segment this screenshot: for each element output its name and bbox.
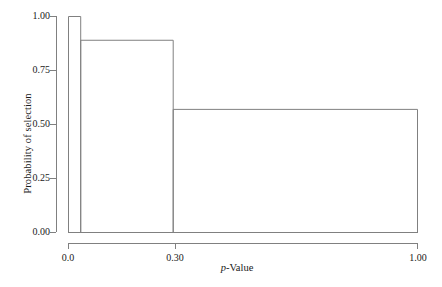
x-axis-label: p-Value bbox=[56, 262, 418, 273]
y-axis-ticks bbox=[50, 17, 56, 233]
histogram-plot bbox=[0, 0, 442, 287]
x-axis-tick-labels: 0.0 0.30 1.00 bbox=[0, 245, 442, 261]
histogram-bar-1 bbox=[69, 17, 81, 233]
histogram-bar-3 bbox=[173, 109, 417, 232]
y-axis-label: Probability of selection bbox=[18, 0, 36, 287]
y-axis-label-text: Probability of selection bbox=[22, 93, 33, 193]
histogram-bar-2 bbox=[81, 40, 173, 232]
chart-figure: 1.00 0.75 0.50 0.25 0.00 0.0 0.30 1.00 P… bbox=[0, 0, 442, 287]
x-axis-label-rest: -Value bbox=[226, 262, 253, 273]
